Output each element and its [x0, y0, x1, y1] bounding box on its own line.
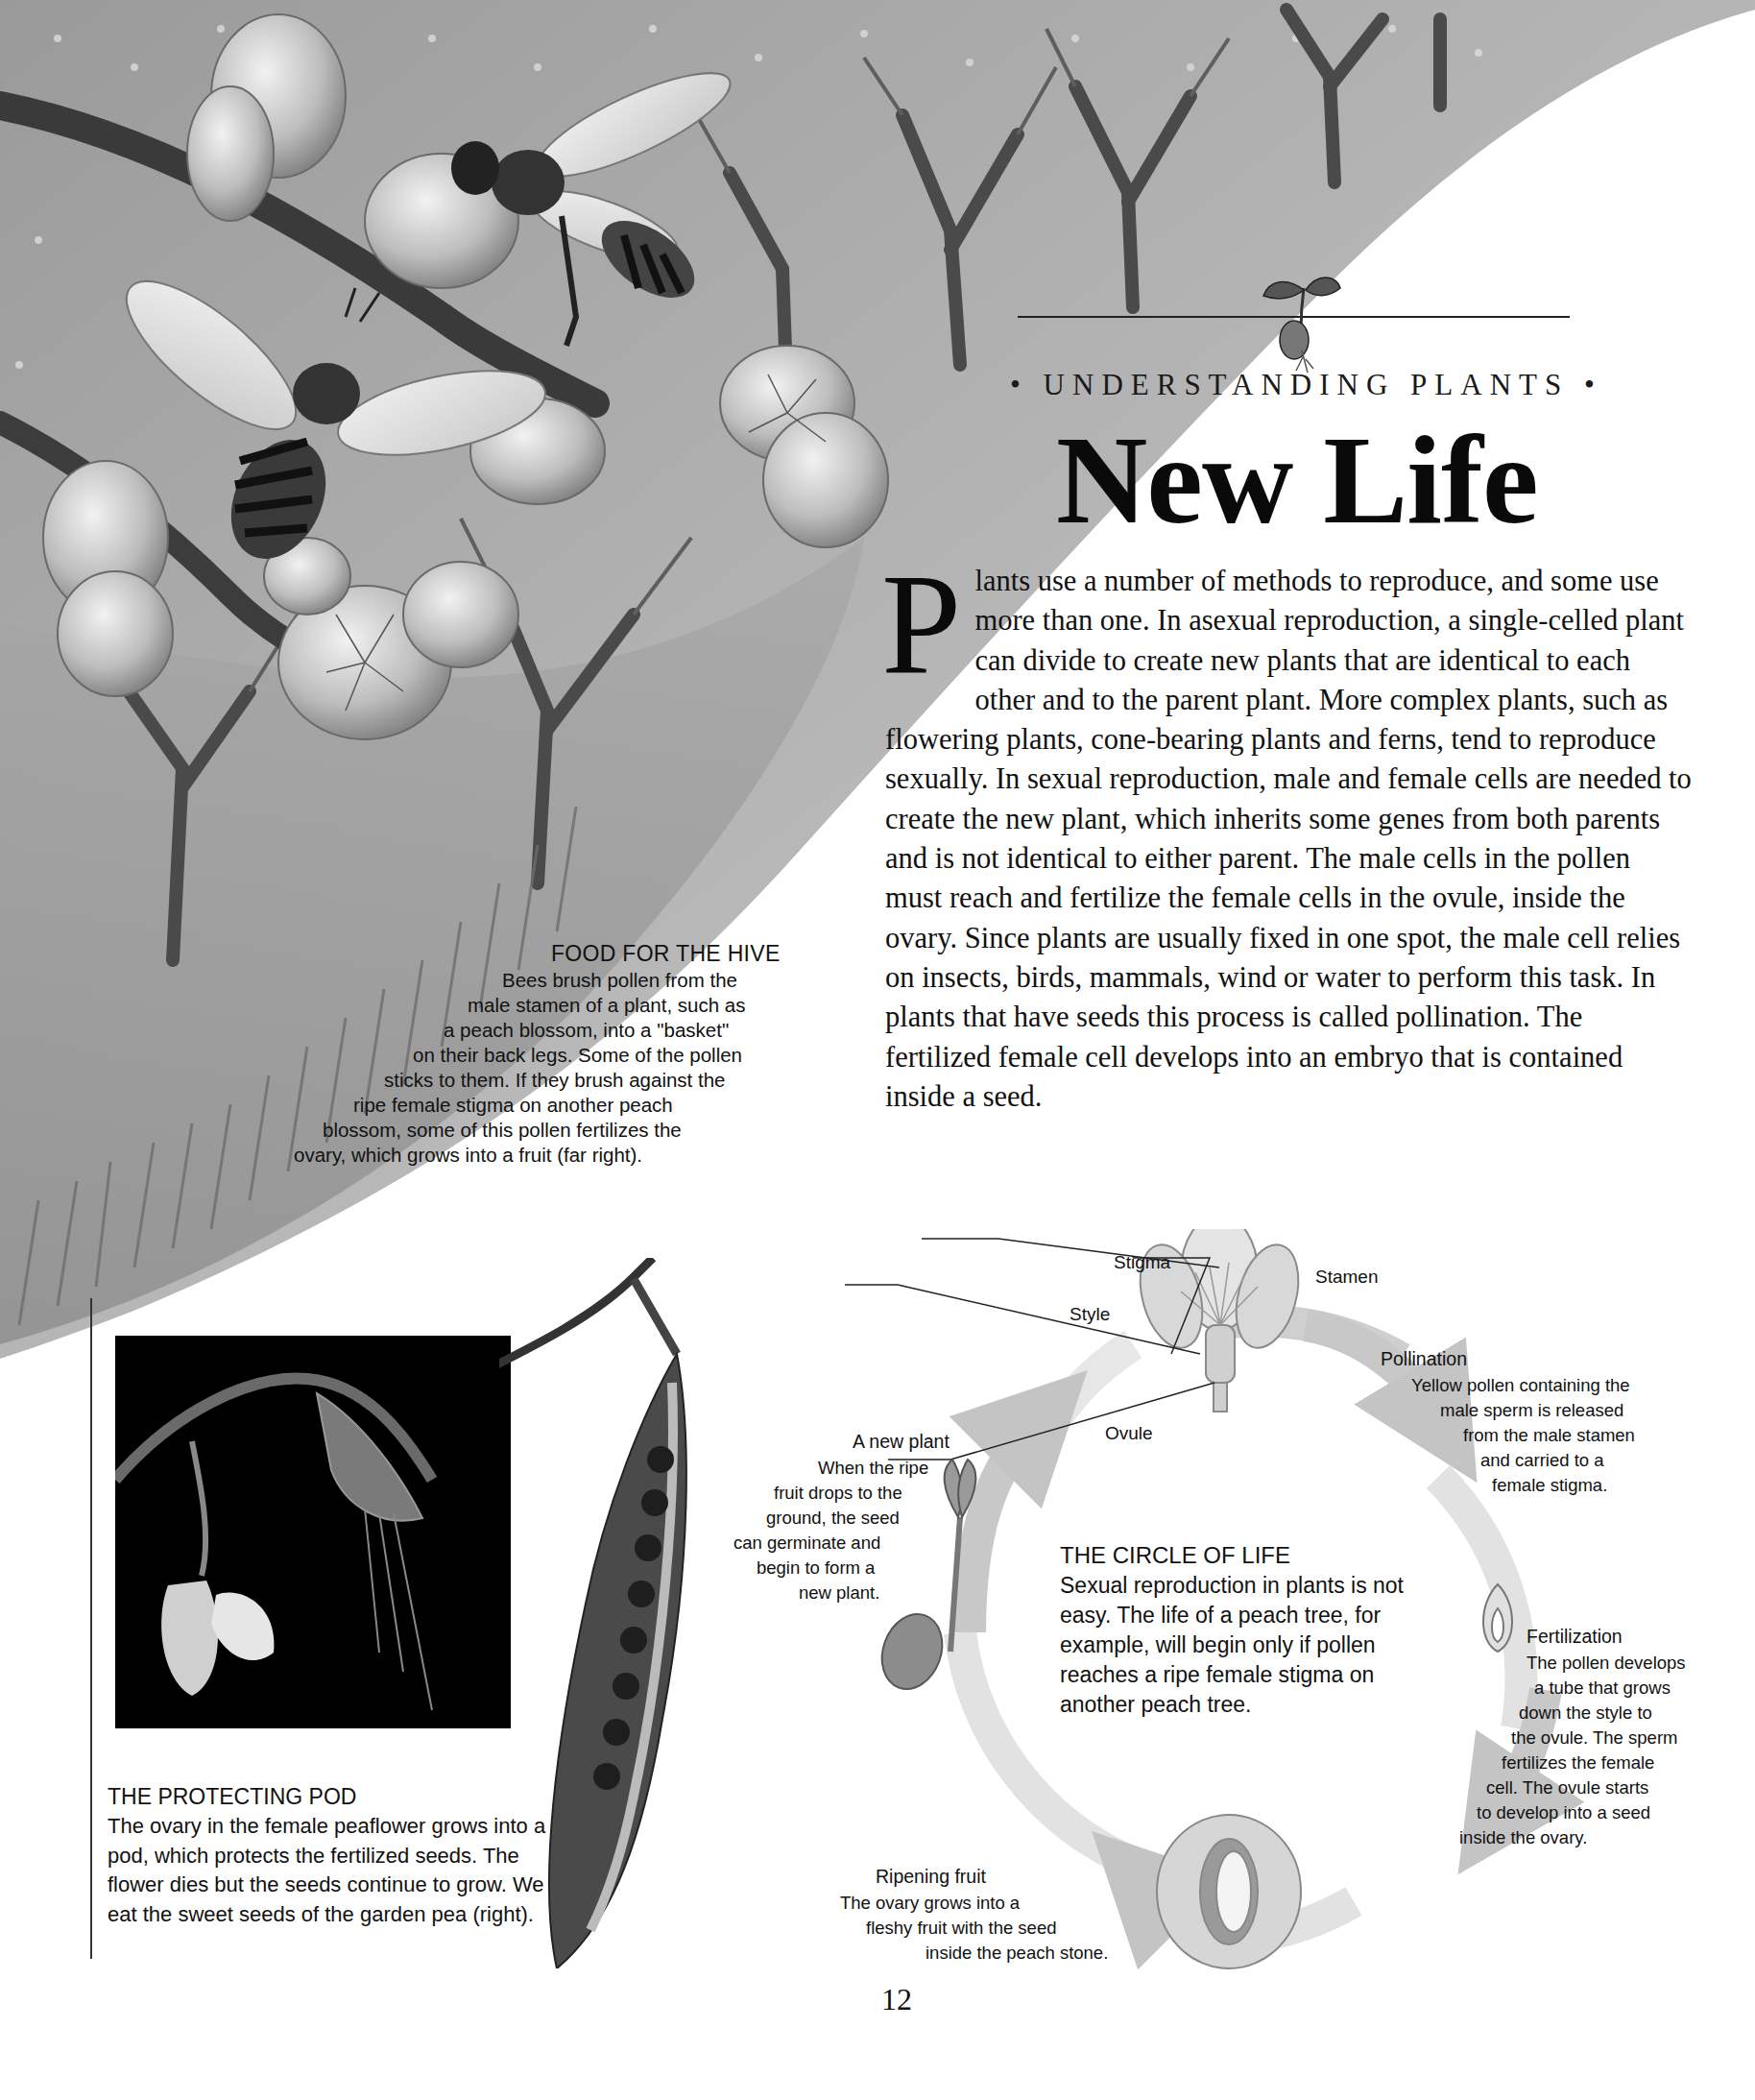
- hive-caption-line: male stamen of a plant, such as: [468, 993, 745, 1018]
- page-number: 12: [881, 1982, 912, 2017]
- stage-line: down the style to: [1519, 1701, 1652, 1726]
- page-title: New Life: [1056, 418, 1538, 543]
- stage-line: the ovule. The sperm: [1511, 1726, 1677, 1750]
- stage-line: cell. The ovule starts: [1486, 1775, 1648, 1800]
- stage-line: The pollen develops: [1527, 1651, 1686, 1676]
- stage-fertilization-title: Fertilization: [1527, 1626, 1623, 1648]
- label-style: Style: [1070, 1304, 1110, 1325]
- intro-text: lants use a number of methods to reprodu…: [885, 565, 1692, 1113]
- hive-caption-line: on their back legs. Some of the pollen: [413, 1043, 742, 1068]
- intro-paragraph: Plants use a number of methods to reprod…: [885, 562, 1692, 1117]
- stage-line: inside the peach stone.: [926, 1941, 1108, 1966]
- stage-line: Yellow pollen containing the: [1411, 1373, 1630, 1398]
- peaflower-photo: [115, 1336, 511, 1728]
- stage-line: from the male stamen: [1463, 1423, 1635, 1448]
- stage-line: fertilizes the female: [1502, 1750, 1654, 1775]
- hive-caption-line: a peach blossom, into a "basket": [444, 1018, 729, 1043]
- drop-cap: P: [881, 567, 961, 681]
- seedling-icon: [1258, 259, 1344, 374]
- label-ovule: Ovule: [1105, 1423, 1153, 1444]
- stage-line: male sperm is released: [1440, 1398, 1623, 1423]
- hive-caption-line: ovary, which grows into a fruit (far rig…: [294, 1143, 642, 1168]
- stage-line: fleshy fruit with the seed: [866, 1916, 1056, 1941]
- hive-caption-title: FOOD FOR THE HIVE: [551, 941, 781, 967]
- label-stigma: Stigma: [1114, 1252, 1170, 1273]
- stage-line: When the ripe: [818, 1456, 928, 1481]
- circle-of-life-body: Sexual reproduction in plants is not eas…: [1060, 1571, 1444, 1720]
- hive-caption-line: ripe female stigma on another peach: [353, 1093, 673, 1118]
- section-kicker: • UNDERSTANDING PLANTS •: [1010, 368, 1576, 402]
- stage-pollination-title: Pollination: [1381, 1348, 1467, 1370]
- circle-of-life-title: THE CIRCLE OF LIFE: [1060, 1542, 1290, 1569]
- stage-line: fruit drops to the: [774, 1481, 902, 1506]
- stage-line: ground, the seed: [766, 1506, 900, 1531]
- hive-caption-line: blossom, some of this pollen fertilizes …: [323, 1118, 682, 1143]
- stage-line: to develop into a seed: [1477, 1800, 1650, 1825]
- stage-line: new plant.: [799, 1581, 879, 1605]
- stage-line: and carried to a: [1480, 1448, 1604, 1473]
- stage-new-plant-title: A new plant: [853, 1431, 950, 1453]
- stage-line: inside the ovary.: [1459, 1825, 1587, 1850]
- label-stamen: Stamen: [1315, 1267, 1378, 1288]
- stage-line: The ovary grows into a: [840, 1891, 1020, 1916]
- hive-caption-line: sticks to them. If they brush against th…: [384, 1068, 726, 1093]
- hive-caption-line: Bees brush pollen from the: [502, 968, 737, 993]
- caption-rule: [90, 1298, 92, 1959]
- stage-line: can germinate and: [733, 1531, 880, 1556]
- stage-ripening-title: Ripening fruit: [876, 1866, 986, 1888]
- pod-caption-body: The ovary in the female peaflower grows …: [108, 1812, 549, 1929]
- stage-line: female stigma.: [1492, 1473, 1607, 1498]
- pod-caption-title: THE PROTECTING POD: [108, 1784, 356, 1810]
- stage-line: begin to form a: [757, 1556, 875, 1581]
- stage-line: a tube that grows: [1534, 1676, 1671, 1701]
